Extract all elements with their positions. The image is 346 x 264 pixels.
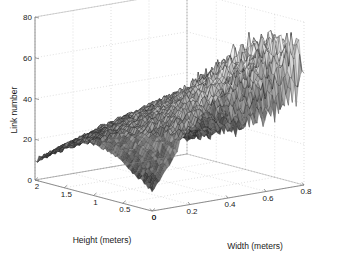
z-tick-label: 80 [23,13,32,22]
y-tick-label: 0.5 [119,205,131,214]
x-tick-label: 0.2 [186,207,198,216]
x-tick-label: 0.4 [224,200,236,209]
z-tick-label: 60 [23,54,32,63]
z-axis-label: Link number [9,86,19,133]
figure-container: 02040608021.510.5000.20.40.60.8 Height (… [0,0,346,264]
y-tick-label: 1.5 [61,190,73,199]
y-tick-label: 1 [93,198,98,207]
x-tick-label: 0.8 [300,187,312,196]
surface-plot-3d: 02040608021.510.5000.20.40.60.8 Height (… [0,0,346,264]
y-tick-label: 2 [35,182,40,191]
y-axis-label: Height (meters) [73,235,132,245]
z-tick-label: 0 [28,176,33,185]
z-tick-label: 20 [23,135,32,144]
x-tick-label: 0.6 [262,194,274,203]
z-tick-label: 40 [23,95,32,104]
x-axis-label: Width (meters) [227,241,283,251]
x-tick-label: 0 [152,213,157,222]
